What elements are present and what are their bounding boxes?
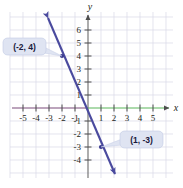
graph-figure: -5 -4 -3 -2 -1 1 2 3 4 5 6 5 4 3 2 1 -1 … (0, 0, 183, 188)
x-tick-label: -3 (45, 113, 53, 123)
callout-a-label: (-2, 4) (13, 42, 36, 52)
coordinate-plane: -5 -4 -3 -2 -1 1 2 3 4 5 6 5 4 3 2 1 -1 … (0, 0, 183, 188)
y-tick-label: -2 (74, 129, 82, 139)
y-tick-label: -3 (74, 142, 82, 152)
y-tick-label: -4 (74, 155, 82, 165)
x-tick-label: 3 (125, 113, 130, 123)
callout-b-label: (1, -3) (130, 135, 153, 145)
y-tick-label: 5 (77, 38, 82, 48)
x-tick-label: -2 (58, 113, 66, 123)
y-tick-label: 4 (77, 51, 82, 61)
y-tick-label: 6 (77, 25, 82, 35)
x-tick-label: 2 (112, 113, 117, 123)
x-axis-label: x (173, 102, 179, 113)
x-tick-label: 5 (151, 113, 156, 123)
y-tick-label: 3 (77, 64, 82, 74)
x-tick-label: 4 (138, 113, 143, 123)
y-axis-label: y (87, 1, 93, 12)
x-tick-label: 1 (99, 113, 104, 123)
y-tick-label: -1 (74, 116, 82, 126)
x-tick-label: -4 (32, 113, 40, 123)
x-tick-label: -5 (19, 113, 27, 123)
